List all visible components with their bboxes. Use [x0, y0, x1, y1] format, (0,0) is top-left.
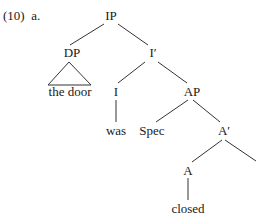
node-abar: A′ — [218, 124, 230, 138]
example-index: (10) — [3, 8, 25, 23]
node-ibar: I′ — [149, 46, 156, 60]
example-number: (10) a. — [3, 9, 40, 23]
tree-branches — [0, 0, 263, 216]
node-was: was — [106, 124, 126, 138]
node-ip: IP — [105, 9, 117, 23]
node-the-door: the door — [49, 85, 92, 99]
node-ap: AP — [184, 85, 201, 99]
node-spec: Spec — [139, 124, 164, 138]
node-dp: DP — [64, 46, 81, 60]
node-closed: closed — [171, 202, 204, 216]
example-letter: a. — [31, 8, 40, 23]
node-a: A — [183, 164, 192, 178]
node-i: I — [114, 85, 118, 99]
